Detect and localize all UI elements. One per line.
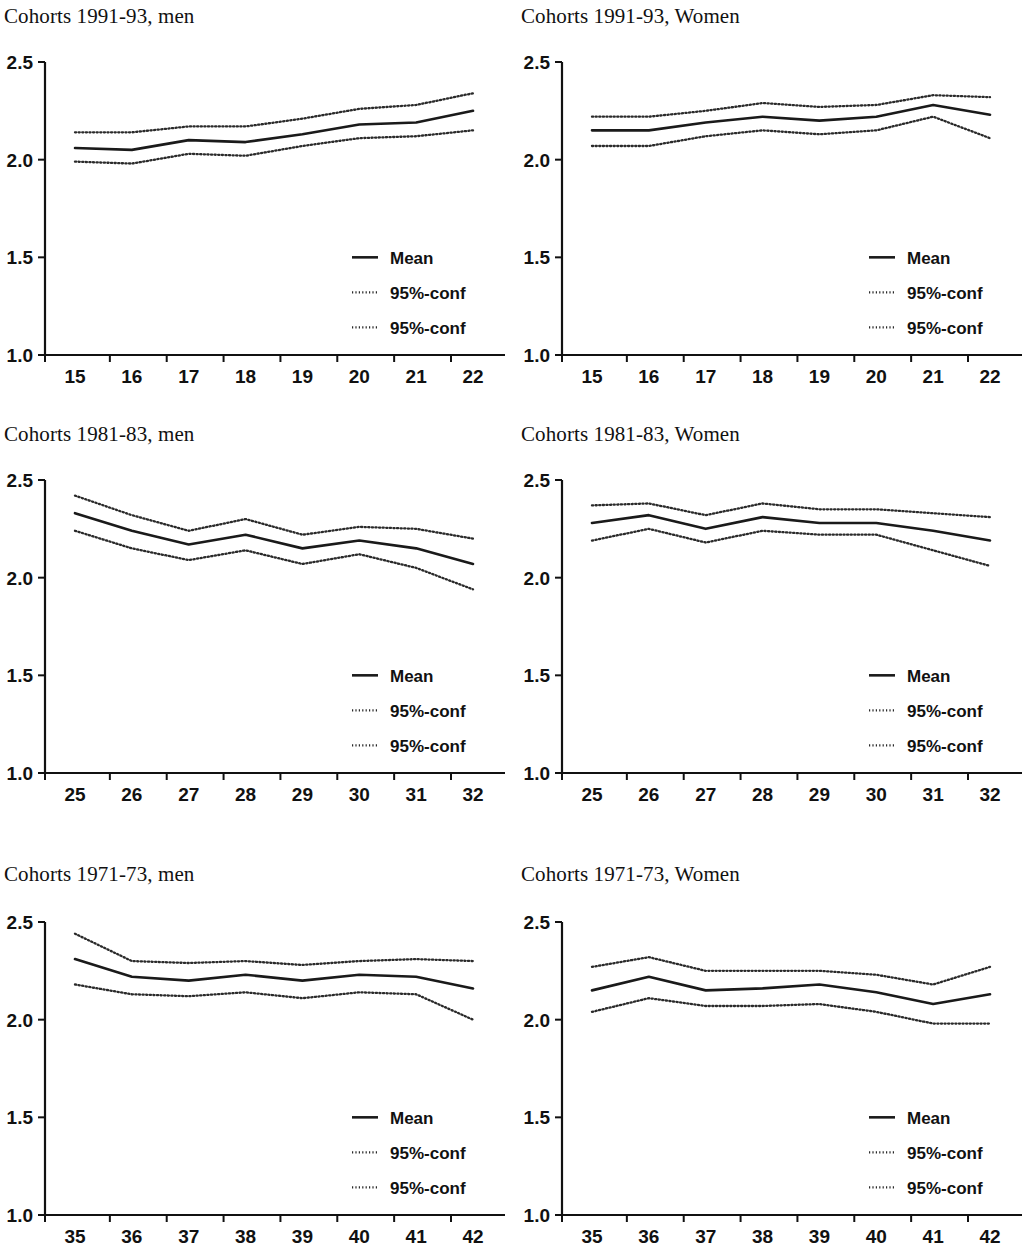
legend-label: Mean [390, 249, 433, 268]
y-tick-label: 2.0 [7, 1010, 33, 1031]
x-tick-label: 26 [121, 784, 142, 805]
chart-panel: Cohorts 1991-93, Women2.52.01.51.0151617… [517, 0, 1034, 420]
x-tick-label: 30 [349, 784, 370, 805]
chart-panel: Cohorts 1981-83, Women2.52.01.51.0252627… [517, 420, 1034, 838]
axis-lines [562, 480, 1022, 773]
axis-lines [45, 922, 505, 1215]
y-tick-label: 1.5 [524, 247, 551, 268]
x-tick-label: 39 [809, 1226, 830, 1247]
x-tick-label: 16 [121, 366, 142, 387]
x-tick-label: 42 [979, 1226, 1000, 1247]
series-mean-line [592, 515, 990, 540]
y-tick-label: 1.0 [524, 1205, 550, 1226]
y-tick-label: 1.5 [7, 1107, 34, 1128]
x-tick-label: 40 [349, 1226, 370, 1247]
x-tick-label: 16 [638, 366, 659, 387]
x-tick-label: 42 [462, 1226, 483, 1247]
y-tick-label: 1.5 [524, 1107, 551, 1128]
plot-area: 2.52.01.51.03536373839404142Mean95%-conf… [0, 838, 517, 1258]
y-tick-label: 1.0 [524, 345, 550, 366]
y-tick-label: 2.5 [524, 52, 551, 73]
x-tick-label: 27 [178, 784, 199, 805]
x-tick-label: 22 [462, 366, 483, 387]
legend-label: 95%-conf [907, 319, 983, 338]
x-tick-label: 21 [406, 366, 428, 387]
legend-label: Mean [907, 249, 950, 268]
legend-label: 95%-conf [390, 1179, 466, 1198]
y-tick-label: 1.0 [7, 345, 33, 366]
x-tick-label: 36 [638, 1226, 659, 1247]
legend-label: 95%-conf [907, 737, 983, 756]
legend-label: 95%-conf [390, 319, 466, 338]
figure-panel-grid: Cohorts 1991-93, men2.52.01.51.015161718… [0, 0, 1034, 1258]
legend-label: 95%-conf [390, 284, 466, 303]
legend-label: Mean [907, 1109, 950, 1128]
x-tick-label: 31 [406, 784, 428, 805]
y-tick-label: 1.5 [7, 665, 34, 686]
x-tick-label: 26 [638, 784, 659, 805]
x-tick-label: 37 [695, 1226, 716, 1247]
plot-area: 2.52.01.51.01516171819202122Mean95%-conf… [517, 0, 1034, 420]
x-tick-label: 17 [178, 366, 199, 387]
x-tick-label: 19 [292, 366, 313, 387]
x-tick-label: 32 [462, 784, 483, 805]
series-mean-line [75, 513, 473, 564]
x-tick-label: 21 [923, 366, 945, 387]
y-tick-label: 1.0 [7, 1205, 33, 1226]
series-conf-line [592, 529, 990, 566]
x-tick-label: 28 [752, 784, 773, 805]
x-tick-label: 19 [809, 366, 830, 387]
x-tick-label: 36 [121, 1226, 142, 1247]
axis-lines [562, 922, 1022, 1215]
x-tick-label: 20 [866, 366, 887, 387]
x-tick-label: 32 [979, 784, 1000, 805]
plot-area: 2.52.01.51.03536373839404142Mean95%-conf… [517, 838, 1034, 1258]
y-tick-label: 2.5 [7, 470, 34, 491]
legend-label: Mean [390, 667, 433, 686]
y-tick-label: 2.0 [524, 150, 550, 171]
legend-label: Mean [907, 667, 950, 686]
x-tick-label: 41 [923, 1226, 945, 1247]
axis-lines [45, 62, 505, 355]
x-tick-label: 30 [866, 784, 887, 805]
x-tick-label: 40 [866, 1226, 887, 1247]
x-tick-label: 37 [178, 1226, 199, 1247]
chart-panel: Cohorts 1981-83, men2.52.01.51.025262728… [0, 420, 517, 838]
y-tick-label: 2.0 [524, 1010, 550, 1031]
y-tick-label: 2.5 [524, 912, 551, 933]
x-tick-label: 41 [406, 1226, 428, 1247]
plot-area: 2.52.01.51.02526272829303132Mean95%-conf… [0, 420, 517, 838]
series-conf-line [592, 117, 990, 146]
legend-label: Mean [390, 1109, 433, 1128]
x-tick-label: 27 [695, 784, 716, 805]
series-conf-line [75, 531, 473, 590]
x-tick-label: 38 [235, 1226, 256, 1247]
x-tick-label: 35 [581, 1226, 603, 1247]
series-conf-line [592, 957, 990, 984]
chart-panel: Cohorts 1991-93, men2.52.01.51.015161718… [0, 0, 517, 420]
legend-label: 95%-conf [907, 284, 983, 303]
y-tick-label: 2.5 [7, 912, 34, 933]
x-tick-label: 35 [64, 1226, 86, 1247]
x-tick-label: 25 [581, 784, 603, 805]
plot-area: 2.52.01.51.02526272829303132Mean95%-conf… [517, 420, 1034, 838]
x-tick-label: 15 [64, 366, 86, 387]
y-tick-label: 2.5 [7, 52, 34, 73]
x-tick-label: 22 [979, 366, 1000, 387]
legend-label: 95%-conf [390, 737, 466, 756]
x-tick-label: 29 [292, 784, 313, 805]
x-tick-label: 15 [581, 366, 603, 387]
legend-label: 95%-conf [907, 1144, 983, 1163]
y-tick-label: 2.0 [7, 568, 33, 589]
x-tick-label: 18 [235, 366, 256, 387]
x-tick-label: 29 [809, 784, 830, 805]
x-tick-label: 25 [64, 784, 86, 805]
plot-area: 2.52.01.51.01516171819202122Mean95%-conf… [0, 0, 517, 420]
x-tick-label: 18 [752, 366, 773, 387]
y-tick-label: 1.5 [7, 247, 34, 268]
series-mean-line [75, 111, 473, 150]
chart-panel: Cohorts 1971-73, Women2.52.01.51.0353637… [517, 838, 1034, 1258]
chart-panel: Cohorts 1971-73, men2.52.01.51.035363738… [0, 838, 517, 1258]
series-conf-line [75, 93, 473, 132]
series-mean-line [592, 977, 990, 1004]
